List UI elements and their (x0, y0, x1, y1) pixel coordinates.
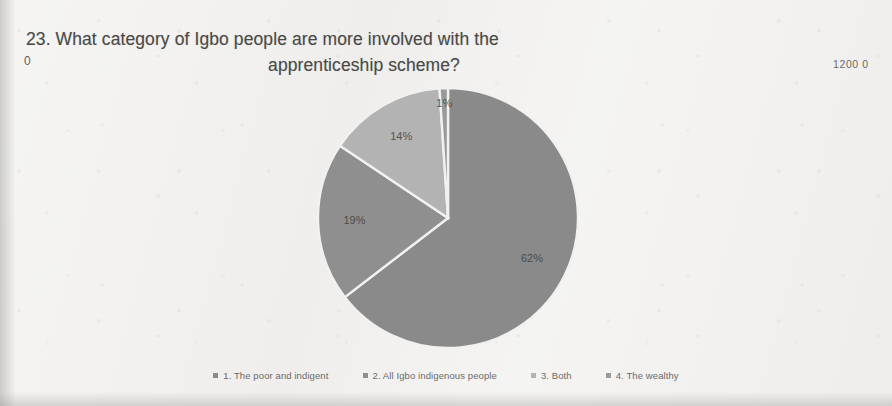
legend-item: 3. Both (531, 370, 572, 381)
chart-title: 23. What category of Igbo people are mor… (26, 26, 646, 78)
pie-data-label: 14% (390, 130, 412, 142)
pie-chart: 62%19%14%1% (310, 84, 586, 352)
legend-item: 4. The wealthy (606, 370, 679, 381)
legend-item-label: 1. The poor and indigent (223, 370, 328, 381)
legend-swatch-icon (363, 373, 368, 378)
legend-item-label: 3. Both (541, 370, 572, 381)
legend-item-label: 4. The wealthy (616, 370, 679, 381)
legend-item: 2. All Igbo indigenous people (363, 370, 497, 381)
legend-swatch-icon (531, 373, 536, 378)
chart-title-line-1: 23. What category of Igbo people are mor… (26, 26, 646, 52)
pie-chart-svg: 62%19%14%1% (310, 84, 586, 352)
pie-data-label: 19% (343, 214, 365, 226)
legend-swatch-icon (213, 373, 218, 378)
stray-mark-left: 0 (24, 54, 31, 68)
scan-edge-shadow-left (0, 0, 16, 406)
legend-item-label: 2. All Igbo indigenous people (373, 370, 497, 381)
chart-legend: 1. The poor and indigent2. All Igbo indi… (0, 370, 892, 381)
legend-item: 1. The poor and indigent (213, 370, 328, 381)
legend-swatch-icon (606, 373, 611, 378)
scanned-slide-page: 23. What category of Igbo people are mor… (0, 0, 892, 406)
chart-title-line-2: apprenticeship scheme? (26, 52, 646, 78)
pie-data-label: 62% (521, 252, 543, 264)
pie-data-label: 1% (436, 97, 452, 109)
scan-edge-shadow-bottom (0, 392, 892, 406)
stray-mark-right: 1200 0 (833, 58, 869, 70)
